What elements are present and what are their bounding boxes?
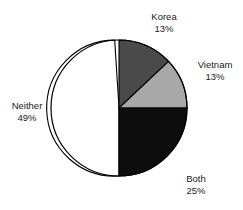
pie-slice-both[interactable] [119,108,187,176]
pie-label-vietnam-name: Vietnam [190,59,240,71]
pie-label-korea: Korea 13% [141,11,187,34]
pie-label-neither-value: 49% [4,112,50,124]
pie-label-both-name: Both [176,173,216,185]
pie-label-korea-value: 13% [141,23,187,35]
pie-label-neither-name: Neither [4,100,50,112]
pie-label-vietnam: Vietnam 13% [190,59,240,82]
pie-label-neither: Neither 49% [4,100,50,123]
pie-chart-figure: .................. Korea 13% Vietnam 13%… [0,0,243,210]
pie-label-vietnam-value: 13% [190,71,240,83]
pie-label-both-value: 25% [176,185,216,197]
pie-label-korea-name: Korea [141,11,187,23]
pie-slice-neither[interactable] [47,40,119,176]
pie-label-both: Both 25% [176,173,216,196]
